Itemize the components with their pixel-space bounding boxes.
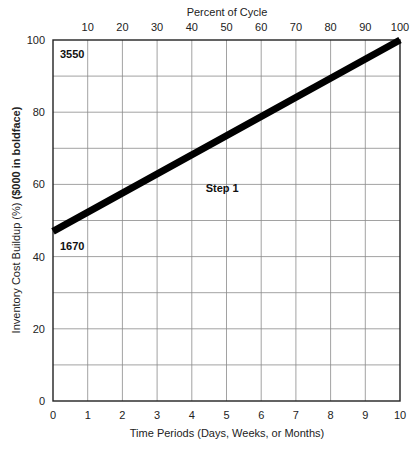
x-axis-title: Time Periods (Days, Weeks, or Months) bbox=[130, 427, 324, 439]
y-tick-label: 40 bbox=[33, 251, 45, 263]
top-tick-label: 60 bbox=[255, 21, 267, 33]
y-axis-title: Inventory Cost Buildup (%) ($000 in bold… bbox=[10, 106, 22, 333]
x-tick-label: 8 bbox=[328, 409, 334, 421]
top-axis-title: Percent of Cycle bbox=[187, 6, 268, 18]
y-axis-title-plain: Inventory Cost Buildup (%) bbox=[10, 200, 22, 334]
x-tick-label: 10 bbox=[394, 409, 406, 421]
gridlines bbox=[53, 40, 400, 401]
top-tick-label: 70 bbox=[290, 21, 302, 33]
top-tick-label: 20 bbox=[116, 21, 128, 33]
x-axis-ticks: 012345678910 bbox=[50, 409, 406, 421]
y-tick-label: 0 bbox=[39, 395, 45, 407]
x-tick-label: 6 bbox=[258, 409, 264, 421]
top-tick-label: 90 bbox=[359, 21, 371, 33]
y-tick-label: 20 bbox=[33, 323, 45, 335]
top-tick-label: 40 bbox=[186, 21, 198, 33]
x-tick-label: 1 bbox=[85, 409, 91, 421]
y-axis-title-bold: ($000 in boldface) bbox=[10, 106, 22, 199]
y-tick-label: 100 bbox=[27, 34, 45, 46]
inventory-cost-chart: Percent of Cycle 102030405060708090100 3… bbox=[0, 0, 418, 450]
y-axis-ticks: 020406080100 bbox=[27, 34, 45, 407]
top-tick-label: 80 bbox=[324, 21, 336, 33]
x-tick-label: 3 bbox=[154, 409, 160, 421]
x-tick-label: 4 bbox=[189, 409, 195, 421]
x-tick-label: 2 bbox=[119, 409, 125, 421]
top-tick-label: 10 bbox=[82, 21, 94, 33]
x-tick-label: 7 bbox=[293, 409, 299, 421]
x-tick-label: 9 bbox=[362, 409, 368, 421]
y-tick-label: 80 bbox=[33, 106, 45, 118]
top-tick-label: 50 bbox=[220, 21, 232, 33]
x-tick-label: 0 bbox=[50, 409, 56, 421]
annotation-label: 1670 bbox=[60, 240, 84, 252]
x-tick-label: 5 bbox=[223, 409, 229, 421]
top-tick-label: 30 bbox=[151, 21, 163, 33]
annotation-label: 3550 bbox=[60, 48, 84, 60]
annotation-label: Step 1 bbox=[206, 182, 239, 194]
annotations: 35501670Step 1 bbox=[60, 48, 239, 251]
top-tick-label: 100 bbox=[391, 21, 409, 33]
top-axis-ticks: 102030405060708090100 bbox=[82, 21, 410, 33]
y-tick-label: 60 bbox=[33, 178, 45, 190]
